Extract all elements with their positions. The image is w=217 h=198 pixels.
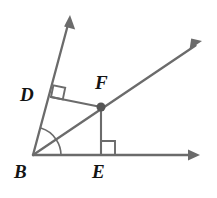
point-label-D: D	[20, 85, 34, 104]
point-label-F: F	[95, 73, 108, 92]
point-dot-F	[97, 103, 106, 112]
point-label-B: B	[14, 162, 27, 181]
angle-arc-lower	[56, 140, 61, 155]
point-label-E: E	[92, 162, 105, 181]
ray-B-bisector-arrowhead	[190, 38, 203, 49]
ray-B-upper-arrowhead	[64, 15, 75, 30]
angle-arc-upper	[41, 128, 57, 140]
geometry-figure: B D E F	[0, 0, 217, 198]
right-angle-at-D	[51, 85, 65, 99]
ray-B-bisector	[33, 38, 202, 155]
ray-B-horizontal-arrowhead	[188, 150, 200, 161]
right-angle-at-E	[101, 141, 115, 155]
ray-B-horizontal	[33, 150, 200, 161]
